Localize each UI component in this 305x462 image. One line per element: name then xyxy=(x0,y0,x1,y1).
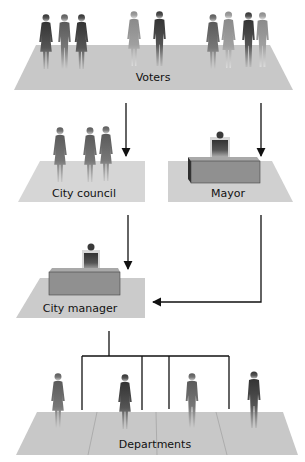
city-manager-label: City manager xyxy=(40,302,120,315)
city-manager-desk xyxy=(49,268,120,295)
mayor-desk xyxy=(188,157,260,183)
city-council-label: City council xyxy=(44,187,124,200)
voters-label: Voters xyxy=(128,71,178,84)
arrow-mayor-to-manager xyxy=(153,215,261,302)
mayor-figure xyxy=(210,132,230,161)
bracket-manager-to-departments xyxy=(82,331,229,410)
mayor-label: Mayor xyxy=(203,187,253,200)
org-diagram xyxy=(0,0,305,462)
departments-label: Departments xyxy=(115,438,195,451)
